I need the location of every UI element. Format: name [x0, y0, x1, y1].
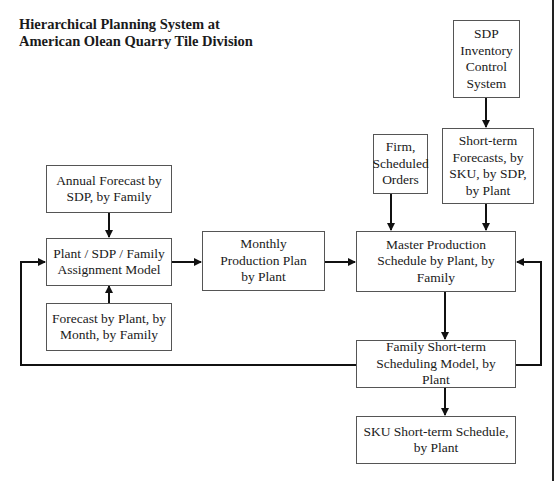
node-short-term-forecasts: Short-term Forecasts, by SKU, by SDP, by…: [442, 128, 534, 204]
node-monthly-plan: Monthly Production Plan by Plant: [202, 231, 325, 291]
node-forecast-by-plant: Forecast by Plant, by Month, by Family: [46, 303, 172, 351]
page-edge-line: [552, 0, 554, 481]
node-family-scheduling: Family Short-term Scheduling Model, by P…: [356, 340, 516, 388]
node-sku-schedule: SKU Short-term Schedule, by Plant: [356, 416, 516, 464]
node-sdp-inventory: SDP Inventory Control System: [453, 20, 520, 98]
node-assignment-model: Plant / SDP / Family Assignment Model: [46, 238, 172, 286]
node-firm-orders: Firm, Scheduled Orders: [373, 134, 428, 194]
node-master-schedule: Master Production Schedule by Plant, by …: [356, 231, 516, 292]
node-annual-forecast: Annual Forecast by SDP, by Family: [46, 165, 172, 213]
feedback-loop-right: [516, 262, 541, 365]
